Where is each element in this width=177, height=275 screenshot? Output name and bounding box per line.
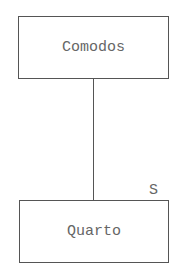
multiplicity-label: S <box>149 182 158 199</box>
entity-comodos: Comodos <box>18 16 169 79</box>
entity-label: Comodos <box>62 39 125 56</box>
connector-line <box>93 78 94 201</box>
entity-label: Quarto <box>67 223 121 240</box>
entity-quarto: Quarto <box>19 200 169 263</box>
